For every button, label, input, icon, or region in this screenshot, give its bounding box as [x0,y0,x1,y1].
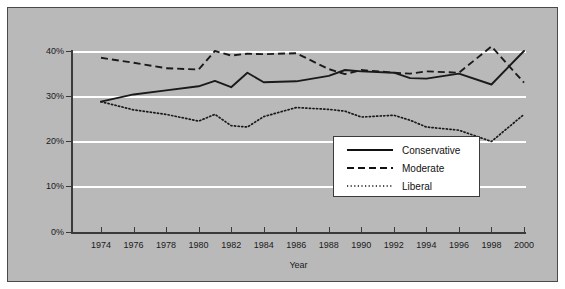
legend-item-moderate: Moderate [334,159,481,177]
legend-swatch-dashed [346,159,394,177]
legend-label-liberal: Liberal [402,181,432,192]
legend-item-liberal: Liberal [334,177,481,195]
x-axis-title: Year [71,260,526,270]
legend-item-conservative: Conservative [334,141,481,159]
chart-figure: 40% 30% 20% 10% 0% 197419761978198019821… [0,0,565,289]
legend-swatch-solid [346,141,394,159]
series-line-moderate [101,46,524,82]
series-line-conservative [101,51,524,102]
chart-legend: Conservative Moderate Liberal [333,136,480,197]
legend-label-moderate: Moderate [402,163,444,174]
chart-plot-area: 40% 30% 20% 10% 0% 197419761978198019821… [7,7,558,282]
legend-label-conservative: Conservative [402,145,460,156]
legend-swatch-dotted [346,177,394,195]
